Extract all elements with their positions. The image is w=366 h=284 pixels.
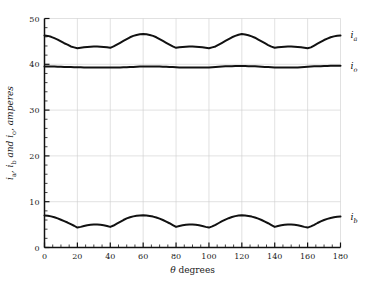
x-tick-label: 40 bbox=[105, 252, 115, 261]
x-tick-label: 80 bbox=[171, 252, 181, 261]
curve-label-ib: ib bbox=[350, 211, 357, 225]
y-tick-label: 40 bbox=[29, 60, 39, 69]
y-tick-label: 50 bbox=[29, 15, 39, 24]
x-tick-label: 180 bbox=[333, 252, 348, 261]
y-tick-label: 10 bbox=[29, 198, 39, 207]
x-tick-label: 100 bbox=[201, 252, 216, 261]
gridlines bbox=[45, 19, 341, 248]
curve-ib bbox=[45, 215, 341, 227]
x-tick-label: 120 bbox=[234, 252, 249, 261]
data-curves bbox=[45, 34, 341, 228]
y-tick-label: 0 bbox=[34, 244, 39, 253]
x-tick-label: 60 bbox=[138, 252, 148, 261]
x-tick-label: 20 bbox=[72, 252, 82, 261]
curve-io bbox=[45, 66, 341, 68]
chart-figure: 02040608010012014016018001020304050 iaio… bbox=[0, 0, 366, 284]
x-tick-label: 160 bbox=[300, 252, 315, 261]
curve-label-io: io bbox=[350, 60, 357, 74]
y-axis-title: ia, ib and io, amperes bbox=[5, 86, 18, 180]
curve-label-ia: ia bbox=[350, 29, 357, 43]
axis-ticks bbox=[45, 19, 341, 248]
x-tick-label: 0 bbox=[42, 252, 47, 261]
y-tick-label: 20 bbox=[29, 152, 39, 161]
plot-frame bbox=[45, 19, 341, 248]
curve-labels: iaioib bbox=[350, 29, 357, 224]
curve-ia bbox=[45, 34, 341, 48]
y-tick-label: 30 bbox=[29, 106, 39, 115]
x-tick-label: 140 bbox=[267, 252, 282, 261]
x-axis-title: θ degrees bbox=[170, 265, 215, 275]
plot-canvas: 02040608010012014016018001020304050 iaio… bbox=[0, 0, 366, 284]
